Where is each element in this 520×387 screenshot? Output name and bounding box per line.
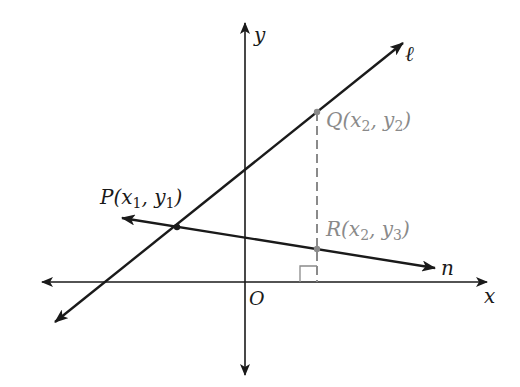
x-axis-label: x <box>484 284 495 308</box>
point-q-label: Q(x2, y2) <box>326 108 411 134</box>
coordinate-diagram: y x O ℓ n P(x1, y1) Q(x2, y2) R(x2, y3) <box>0 0 520 387</box>
line-l-label: ℓ <box>405 42 414 66</box>
point-q <box>314 109 320 115</box>
line-l <box>55 43 403 322</box>
origin-label: O <box>249 287 265 309</box>
point-p-label: P(x1, y1) <box>99 185 182 211</box>
point-p <box>174 224 180 230</box>
line-n-label: n <box>441 256 454 280</box>
y-axis-label: y <box>253 23 266 47</box>
point-r <box>314 246 320 252</box>
point-r-label: R(x2, y3) <box>325 217 410 243</box>
right-angle-marker <box>300 266 317 282</box>
